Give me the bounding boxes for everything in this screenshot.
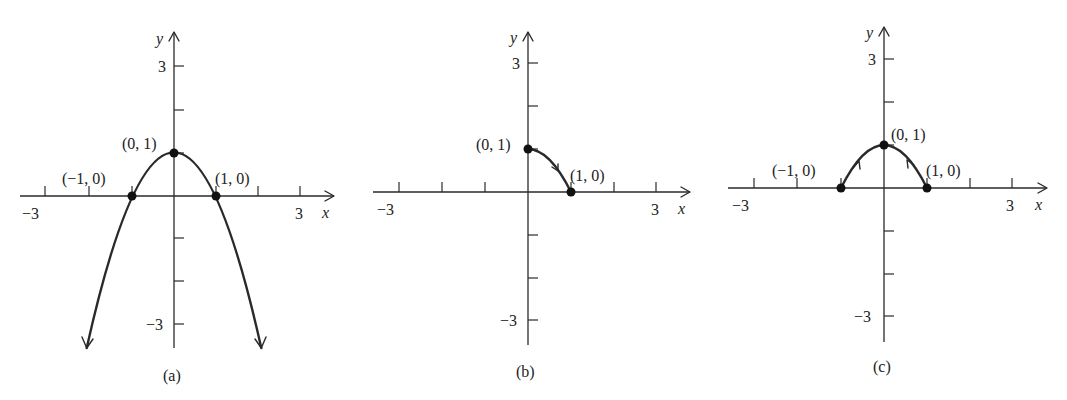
x-tick-label-neg3: −3 [22, 205, 39, 222]
x-tick-label-neg3: −3 [732, 197, 749, 214]
point-neg1-0 [837, 184, 846, 193]
panel-caption: (b) [516, 363, 535, 381]
x-axis-label: x [1034, 196, 1042, 213]
y-axis-label: y [864, 24, 874, 42]
y-tick-label-3: 3 [158, 58, 166, 75]
x-tick-label-3: 3 [1006, 197, 1014, 214]
y-axis-label: y [154, 30, 164, 48]
x-axis-label: x [321, 204, 329, 221]
x-tick-label-3: 3 [651, 201, 659, 218]
point-0-1 [880, 141, 889, 150]
y-tick-label-neg3: −3 [500, 312, 517, 329]
panel-b: −3 3 3 −3 x y (0, 1) (1, 0) (b) [373, 29, 690, 381]
x-ticks [45, 186, 300, 196]
point-0-1 [524, 145, 533, 154]
y-tick-label-3: 3 [868, 51, 876, 68]
point-label-neg1-0: (−1, 0) [62, 170, 106, 188]
x-tick-label-neg3: −3 [377, 201, 394, 218]
point-label-0-1: (0, 1) [122, 135, 157, 153]
point-label-1-0: (1, 0) [215, 170, 250, 188]
point-label-0-1: (0, 1) [476, 136, 511, 154]
y-ticks [174, 66, 184, 324]
point-label-1-0: (1, 0) [926, 162, 961, 180]
point-label-1-0: (1, 0) [570, 167, 605, 185]
x-ticks [754, 178, 1012, 188]
y-axis-label: y [508, 29, 518, 47]
point-1-0 [567, 188, 576, 197]
x-axis-label: x [677, 200, 685, 217]
x-tick-label-3: 3 [295, 205, 303, 222]
point-1-0 [212, 192, 221, 201]
figure: −3 3 3 −3 x y (−1, 0) (0, 1) (1, 0) (a) [0, 0, 1067, 400]
y-tick-label-neg3: −3 [854, 308, 871, 325]
point-label-0-1: (0, 1) [891, 126, 926, 144]
y-tick-label-neg3: −3 [146, 316, 163, 333]
panel-caption: (a) [163, 367, 181, 385]
panel-c: −3 3 3 −3 x y (−1, 0) (0, 1) (1, 0) (c) [728, 24, 1047, 376]
point-neg1-0 [128, 192, 137, 201]
y-tick-label-3: 3 [512, 55, 520, 72]
parabola-arc-curve [528, 149, 571, 192]
panel-a: −3 3 3 −3 x y (−1, 0) (0, 1) (1, 0) (a) [20, 30, 334, 385]
point-label-neg1-0: (−1, 0) [772, 162, 816, 180]
point-1-0 [923, 184, 932, 193]
point-0-1 [170, 149, 179, 158]
panel-caption: (c) [873, 358, 891, 376]
